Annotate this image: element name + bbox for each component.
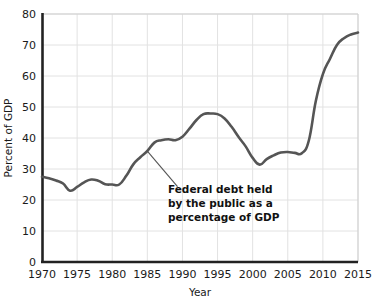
x-tick-label: 1980 (98, 268, 126, 281)
x-tick-label: 1990 (168, 268, 196, 281)
y-tick-label: 10 (22, 225, 36, 238)
y-tick-label: 70 (22, 39, 36, 52)
annotation-line-2: by the public as a (168, 197, 273, 209)
y-axis-tick-labels: 01020304050607080 (22, 8, 36, 269)
x-tick-label: 2000 (239, 268, 267, 281)
x-tick-label: 1985 (133, 268, 161, 281)
x-tick-label: 1970 (28, 268, 56, 281)
x-tick-label: 1975 (63, 268, 91, 281)
x-tick-label: 2005 (274, 268, 302, 281)
y-tick-label: 80 (22, 8, 36, 21)
y-tick-label: 50 (22, 101, 36, 114)
x-axis-title: Year (188, 286, 212, 298)
chart-page: 01020304050607080 1970197519801985199019… (0, 0, 376, 304)
x-tick-label: 2010 (309, 268, 337, 281)
x-tick-label: 1995 (204, 268, 232, 281)
y-tick-label: 40 (22, 132, 36, 145)
annotation-line-1: Federal debt held (168, 183, 273, 195)
annotation-line-3: percentage of GDP (168, 211, 280, 223)
y-tick-label: 60 (22, 70, 36, 83)
line-chart: 01020304050607080 1970197519801985199019… (0, 0, 376, 304)
y-tick-label: 20 (22, 194, 36, 207)
x-tick-label: 2015 (344, 268, 372, 281)
y-tick-label: 30 (22, 163, 36, 176)
x-axis-tick-labels: 1970197519801985199019952000200520102015 (28, 268, 372, 281)
y-axis-title: Percent of GDP (2, 99, 14, 178)
